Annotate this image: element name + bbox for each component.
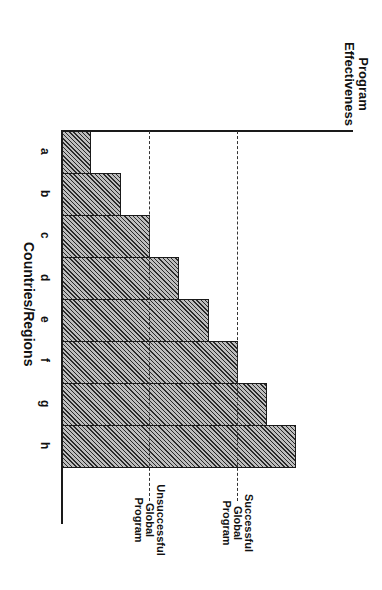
- value-axis-line: [61, 130, 353, 132]
- unsuccessful-label-line1: Unsuccessful: [155, 483, 166, 557]
- category-axis-title-text: Countries/Regions: [21, 242, 37, 366]
- value-axis-title-line1: Program: [356, 38, 370, 130]
- category-label-g: g: [38, 400, 52, 407]
- category-label-f: f: [38, 358, 52, 362]
- successful-label-line1: Successful: [243, 493, 254, 553]
- successful-label-line3: Program: [221, 493, 232, 553]
- successful-label: Successful Global Program: [221, 493, 254, 553]
- bar-b: [62, 173, 121, 216]
- successful-label-line2: Global: [232, 493, 243, 553]
- unsuccessful-label-line2: Global: [144, 483, 155, 557]
- category-label-b: b: [38, 190, 52, 197]
- bar-a: [62, 131, 91, 174]
- category-label-a: a: [38, 148, 52, 155]
- bar-c: [62, 215, 150, 258]
- value-axis-title: Program Effectiveness: [342, 38, 370, 130]
- bar-e: [62, 299, 209, 342]
- value-axis-title-line2: Effectiveness: [342, 38, 356, 130]
- unsuccessful-threshold-line: [149, 131, 150, 501]
- unsuccessful-label: Unsuccessful Global Program: [133, 483, 166, 557]
- bar-d: [62, 257, 179, 300]
- bar-f: [62, 341, 238, 384]
- category-axis-title: Countries/Regions: [21, 242, 37, 362]
- category-label-c: c: [38, 232, 52, 239]
- unsuccessful-label-line3: Program: [133, 483, 144, 557]
- category-label-h: h: [38, 442, 52, 449]
- successful-threshold-line: [237, 131, 238, 501]
- category-label-d: d: [38, 274, 52, 281]
- bar-chart: abcdefgh Program Effectiveness Countries…: [0, 0, 382, 590]
- category-label-e: e: [38, 316, 52, 323]
- bar-h: [62, 425, 296, 468]
